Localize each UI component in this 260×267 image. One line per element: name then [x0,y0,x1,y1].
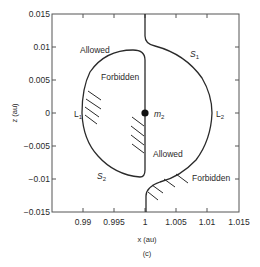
y-tick-label: 0 [45,108,50,118]
hatch-bottom [148,174,188,200]
x-tick-label: 0.99 [75,217,92,227]
label-allowed-top: Allowed [80,45,110,55]
y-tick-label: −0.01 [28,174,50,184]
label-forbidden-inner: Forbidden [101,72,140,82]
label-m2: m2 [154,109,165,120]
label-allowed-bottom: Allowed [153,149,183,159]
y-tick-label: 0.01 [33,42,50,52]
label-forbidden-bottom: Forbidden [192,173,231,183]
label-s2: S2 [97,171,107,182]
x-tick-label: 1 [143,217,148,227]
label-l2: L2 [216,109,225,120]
y-tick-label: 0.015 [29,9,51,19]
label-s1: S1 [190,49,200,60]
y-axis-label: z (au) [10,103,19,123]
y-tick-label: 0.005 [29,75,51,85]
x-tick-label: 0.995 [103,217,125,227]
m2-marker [141,109,148,116]
x-axis-label: x (au) [137,235,157,244]
figure-caption: (c) [143,249,152,258]
zero-velocity-curve-inner [82,50,145,177]
x-tick-label: 1.015 [228,217,250,227]
hatch-m2 [131,117,144,153]
zero-velocity-diagram: 0.015 0.01 0.005 0 −0.005 −0.01 −0.015 0… [0,0,260,267]
x-tick-label: 1.005 [165,217,187,227]
x-tick-label: 1.01 [199,217,216,227]
hatch-l1 [85,91,101,124]
y-tick-label: −0.005 [24,141,51,151]
y-tick-label: −0.015 [24,207,51,217]
